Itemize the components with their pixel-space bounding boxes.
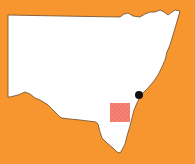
highlighted-region-square <box>110 103 130 122</box>
nsw-locator-map <box>0 0 195 164</box>
map-canvas <box>0 0 195 164</box>
city-marker-dot-icon <box>135 91 143 99</box>
